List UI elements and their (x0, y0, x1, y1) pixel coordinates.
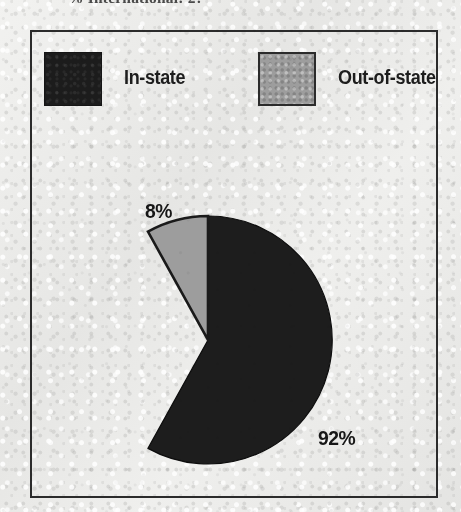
pie-chart-svg (32, 32, 440, 500)
international-percentage-text: % International: 2? (68, 0, 204, 7)
pie-chart-area: 8% 92% (32, 32, 440, 500)
clipped-header-line: % International: 2? (0, 0, 461, 9)
pie-value-label-in-state: 92% (318, 426, 355, 450)
pie-slice-out-of-state[interactable] (148, 216, 208, 340)
scanned-chart-page: % International: 2? In-state Out-of-stat… (0, 0, 461, 512)
chart-frame-border: In-state Out-of-state 8% 92% (30, 30, 438, 498)
pie-value-label-out-of-state: 8% (145, 199, 172, 223)
